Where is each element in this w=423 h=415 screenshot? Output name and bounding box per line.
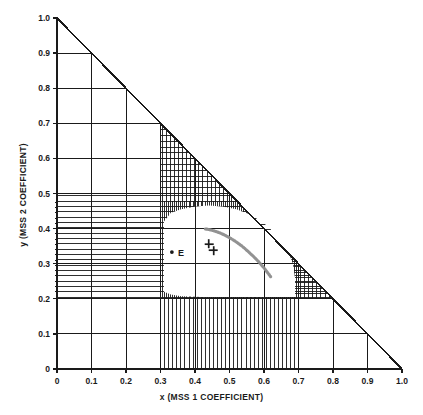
y-tick-label: 0.4 bbox=[38, 224, 50, 234]
chart-canvas: 00.10.20.30.40.50.60.70.80.91.000.10.20.… bbox=[0, 0, 423, 415]
x-tick-label: 0.1 bbox=[86, 376, 98, 386]
y-tick-label: 0.1 bbox=[38, 329, 50, 339]
x-axis-label: x (MSS 1 COEFFICIENT) bbox=[0, 392, 423, 402]
x-tick-label: 0.2 bbox=[120, 376, 132, 386]
x-tick-label: 0.7 bbox=[293, 376, 305, 386]
x-tick-label: 1.0 bbox=[396, 376, 408, 386]
y-tick-label: 0.3 bbox=[38, 259, 50, 269]
y-tick-label: 0.6 bbox=[38, 153, 50, 163]
y-tick-label: 0.5 bbox=[38, 189, 50, 199]
hatching-group bbox=[57, 124, 378, 369]
x-tick-label: 0.8 bbox=[327, 376, 339, 386]
x-tick-label: 0.5 bbox=[224, 376, 236, 386]
y-tick-label: 0.2 bbox=[38, 294, 50, 304]
equal-energy-point-marker bbox=[170, 250, 174, 254]
planckian-locus-curve bbox=[205, 229, 271, 277]
y-tick-label: 1.0 bbox=[38, 13, 50, 23]
x-tick-label: 0.4 bbox=[189, 376, 201, 386]
y-axis-label: y (MSS 2 COEFFICIENT) bbox=[18, 80, 28, 310]
x-tick-label: 0.3 bbox=[155, 376, 167, 386]
x-tick-label: 0.9 bbox=[362, 376, 374, 386]
x-tick-label: 0.6 bbox=[258, 376, 270, 386]
y-tick-label: 0 bbox=[45, 364, 50, 374]
equal-energy-point-label: E bbox=[178, 248, 184, 258]
y-tick-label: 0.9 bbox=[38, 48, 50, 58]
y-tick-label: 0.7 bbox=[38, 118, 50, 128]
x-tick-label: 0 bbox=[55, 376, 60, 386]
white-point-cross-marker bbox=[205, 239, 218, 255]
y-tick-label: 0.8 bbox=[38, 83, 50, 93]
chromaticity-diagram: 00.10.20.30.40.50.60.70.80.91.000.10.20.… bbox=[0, 0, 423, 415]
